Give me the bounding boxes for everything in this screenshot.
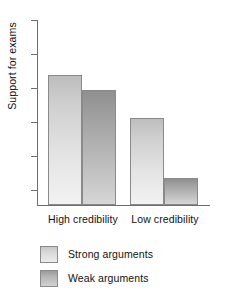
x-axis-category-label-high-credibility: High credibility <box>38 212 128 226</box>
x-axis-category-label-low-credibility: Low credibility <box>122 212 208 226</box>
legend-item-weak-arguments: Weak arguments <box>40 268 220 292</box>
bar-chart: Support for exams High credibility Low c… <box>0 0 226 300</box>
legend-item-strong-arguments: Strong arguments <box>40 244 220 268</box>
bar-high-credibility-strong-arguments <box>48 75 82 205</box>
bar-high-credibility-weak-arguments <box>82 90 116 205</box>
legend-item-label: Weak arguments <box>68 270 149 286</box>
bar-low-credibility-weak-arguments <box>164 178 198 205</box>
legend-item-label: Strong arguments <box>68 246 153 262</box>
bar-low-credibility-strong-arguments <box>130 118 164 205</box>
legend-swatch-icon <box>40 246 58 263</box>
legend: Strong arguments Weak arguments <box>40 244 220 292</box>
legend-swatch-icon <box>40 270 58 287</box>
